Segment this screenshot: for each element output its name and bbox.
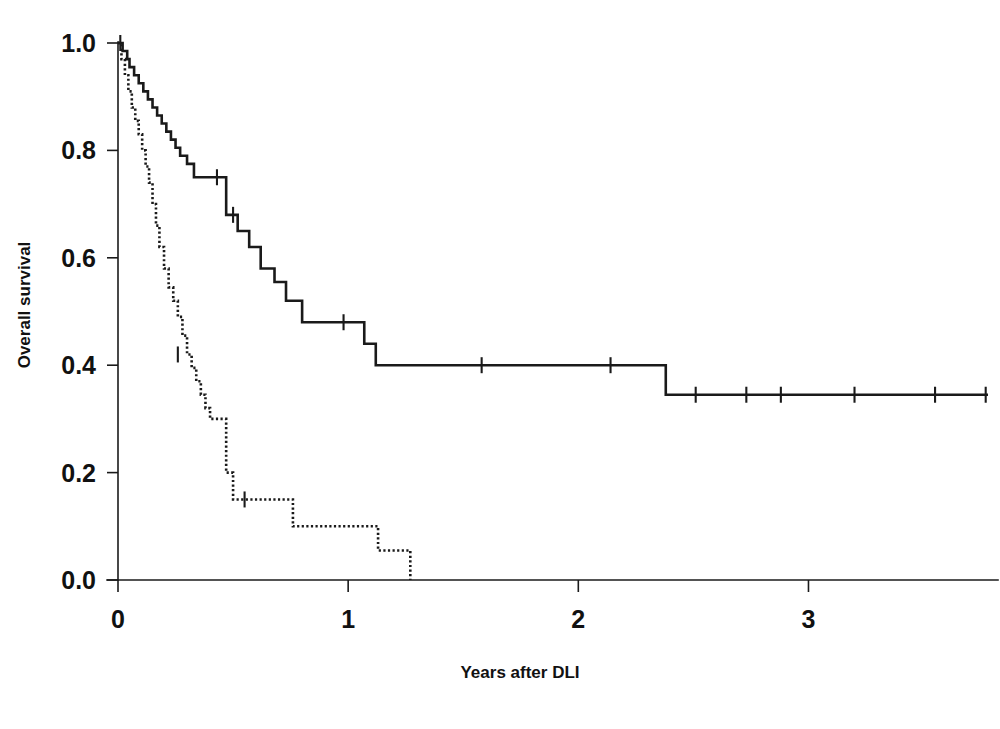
- x-axis-title: Years after DLI: [460, 663, 579, 682]
- x-tick-label: 1: [341, 605, 355, 633]
- y-tick-label: 0.6: [61, 244, 96, 272]
- axes: [107, 42, 998, 592]
- axis-tick-labels: 0.00.20.40.60.81.00123: [61, 29, 815, 633]
- y-axis-title: Overall survival: [15, 242, 34, 369]
- y-tick-label: 0.4: [61, 351, 96, 379]
- kaplan-meier-figure: 0.00.20.40.60.81.00123 Years after DLI O…: [0, 0, 1000, 729]
- x-tick-label: 2: [571, 605, 585, 633]
- solid-curve: [118, 43, 988, 395]
- x-tick-label: 0: [111, 605, 125, 633]
- x-tick-label: 3: [802, 605, 816, 633]
- survival-plot: 0.00.20.40.60.81.00123 Years after DLI O…: [0, 0, 1000, 729]
- y-tick-label: 1.0: [61, 29, 96, 57]
- y-tick-label: 0.2: [61, 459, 96, 487]
- y-tick-label: 0.8: [61, 136, 96, 164]
- survival-curves: [118, 43, 988, 580]
- censor-marks: [120, 35, 985, 507]
- y-tick-label: 0.0: [61, 566, 96, 594]
